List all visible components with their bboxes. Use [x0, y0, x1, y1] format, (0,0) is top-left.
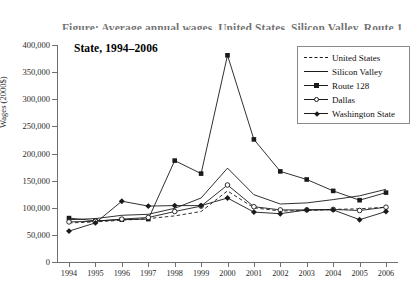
x-tick-label: 2002 — [272, 269, 288, 278]
legend-swatch-icon — [303, 52, 329, 64]
legend-line — [304, 57, 328, 58]
data-point-diamond — [145, 203, 151, 209]
legend-marker-circle-icon — [314, 97, 319, 102]
x-tick — [386, 262, 387, 267]
x-tick — [148, 262, 149, 267]
data-point-square — [278, 169, 283, 174]
legend-marker-square-icon — [314, 83, 319, 88]
x-tick-label: 1997 — [140, 269, 156, 278]
legend-swatch-icon — [303, 94, 329, 106]
legend-label: Dallas — [332, 94, 355, 106]
series-line — [69, 198, 386, 231]
x-tick — [175, 262, 176, 267]
data-point-circle — [120, 217, 125, 222]
x-tick — [307, 262, 308, 267]
legend-label: Silicon Valley — [332, 66, 383, 78]
y-tick-label: 350,000 — [22, 67, 50, 77]
y-tick-label: 300,000 — [22, 94, 50, 104]
data-point-circle — [252, 204, 257, 209]
y-tick-label: 100,000 — [22, 203, 50, 213]
figure-title-line1-clipped: Figure: Average annual wages, United Sta… — [62, 22, 402, 30]
x-tick — [254, 262, 255, 267]
data-point-diamond — [251, 209, 257, 215]
x-tick — [69, 262, 70, 267]
x-tick-label: 1995 — [87, 269, 103, 278]
legend-item-united-states[interactable]: United States — [303, 51, 405, 65]
x-tick — [360, 262, 361, 267]
legend-swatch-icon — [303, 80, 329, 92]
data-point-circle — [146, 215, 151, 220]
y-tick-label: 0 — [46, 257, 50, 267]
series-dallas — [67, 183, 389, 225]
data-point-square — [172, 158, 177, 163]
x-tick — [280, 262, 281, 267]
y-axis-labels: 050,000100,000150,000200,000250,000300,0… — [0, 0, 50, 285]
x-tick — [201, 262, 202, 267]
y-tick-label: 150,000 — [22, 176, 50, 186]
data-point-square — [199, 171, 204, 176]
legend-label: Route 128 — [332, 80, 369, 92]
y-tick-label: 250,000 — [22, 121, 50, 131]
x-tick-label: 1999 — [193, 269, 209, 278]
chart-legend: United StatesSilicon ValleyRoute 128Dall… — [297, 46, 410, 124]
data-point-square — [331, 189, 336, 194]
legend-item-route-128[interactable]: Route 128 — [303, 79, 405, 93]
legend-item-washington-state[interactable]: Washington State — [303, 107, 405, 121]
data-point-square — [252, 137, 257, 142]
series-washington-state — [66, 195, 389, 234]
data-point-circle — [225, 183, 230, 188]
data-point-square — [225, 53, 230, 58]
legend-item-silicon-valley[interactable]: Silicon Valley — [303, 65, 405, 79]
x-tick-label: 2004 — [325, 269, 341, 278]
data-point-diamond — [357, 217, 363, 223]
data-point-square — [304, 177, 309, 182]
x-tick-label: 2005 — [351, 269, 367, 278]
legend-marker-diamond-icon — [314, 111, 320, 117]
x-tick — [95, 262, 96, 267]
data-point-diamond — [66, 228, 72, 234]
data-point-square — [384, 190, 389, 195]
x-tick — [122, 262, 123, 267]
y-tick-label: 50,000 — [27, 230, 50, 240]
data-point-circle — [172, 209, 177, 214]
x-tick-label: 2006 — [378, 269, 394, 278]
data-point-circle — [67, 220, 72, 225]
x-tick — [333, 262, 334, 267]
x-tick-label: 2000 — [219, 269, 235, 278]
y-tick-label: 200,000 — [22, 149, 50, 159]
x-tick-label: 2001 — [246, 269, 262, 278]
y-tick-label: 400,000 — [22, 40, 50, 50]
x-tick-label: 2003 — [299, 269, 315, 278]
legend-item-dallas[interactable]: Dallas — [303, 93, 405, 107]
data-point-circle — [357, 208, 362, 213]
data-point-square — [357, 198, 362, 203]
x-tick-label: 1998 — [166, 269, 182, 278]
x-tick — [228, 262, 229, 267]
legend-line — [304, 71, 328, 72]
legend-label: United States — [332, 52, 380, 64]
data-point-diamond — [225, 195, 231, 201]
y-tick — [52, 262, 57, 263]
data-point-diamond — [383, 209, 389, 215]
legend-swatch-icon — [303, 108, 329, 120]
x-tick-label: 1994 — [61, 269, 77, 278]
chart-figure: Figure: Average annual wages, United Sta… — [0, 0, 417, 285]
legend-label: Washington State — [332, 108, 395, 120]
x-tick-label: 1996 — [114, 269, 130, 278]
legend-swatch-icon — [303, 66, 329, 78]
data-point-diamond — [304, 207, 310, 213]
